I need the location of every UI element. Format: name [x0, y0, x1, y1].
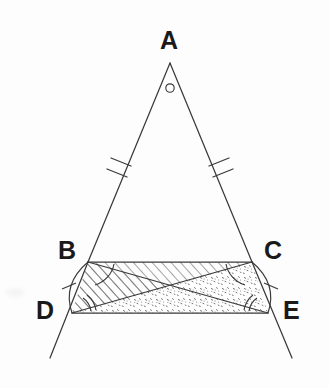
tick-arc-BD: [62, 283, 76, 289]
segment-AB: [88, 63, 170, 262]
geometry-diagram-canvas: A B C D E: [0, 0, 329, 388]
vertex-label-B: B: [58, 238, 76, 263]
segment-AC: [170, 63, 252, 262]
construction-lines: [50, 63, 292, 358]
vertex-label-E: E: [283, 298, 300, 323]
geometry-figure: [0, 0, 329, 388]
vertex-label-A: A: [160, 28, 178, 53]
apex-angle-circle-marker: [166, 84, 174, 92]
tick-arc-CE: [264, 283, 278, 289]
filled-regions: [72, 262, 268, 313]
vertex-label-C: C: [264, 238, 282, 263]
vertex-label-D: D: [36, 298, 54, 323]
